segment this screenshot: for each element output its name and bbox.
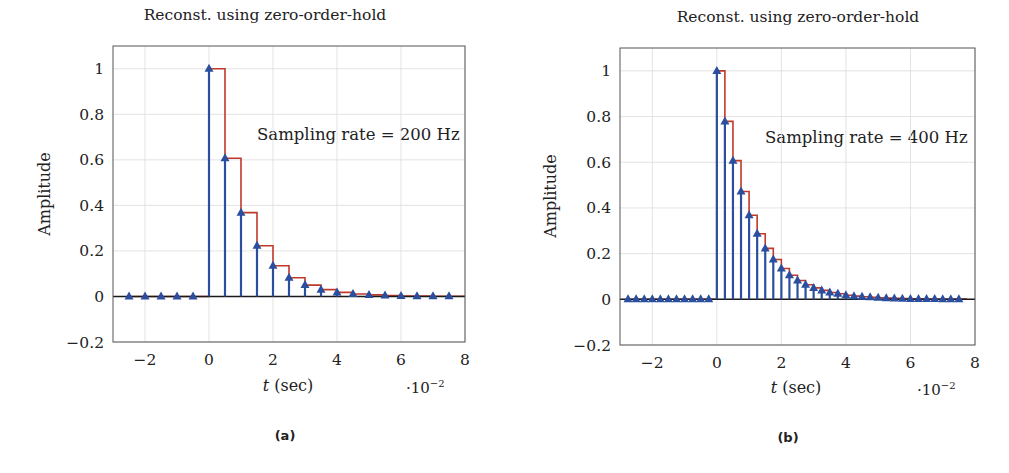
zero-order-hold-line [129, 69, 465, 297]
sample-marker-triangle-icon [656, 294, 665, 302]
x-tick-label: 8 [460, 351, 470, 369]
sample-marker-triangle-icon [688, 294, 697, 302]
plot-area-a: −0.200.20.40.60.81−202468 [66, 46, 470, 369]
y-tick-label: −0.2 [66, 334, 104, 352]
sample-marker-triangle-icon [173, 292, 182, 300]
sample-marker-triangle-icon [737, 187, 746, 195]
sample-marker-triangle-icon [680, 294, 689, 302]
sample-marker-triangle-icon [333, 287, 342, 295]
y-tick-label: 0.6 [586, 154, 611, 172]
sample-marker-triangle-icon [825, 287, 834, 295]
sample-marker-triangle-icon [269, 261, 278, 269]
y-tick-label: 1 [94, 60, 104, 78]
y-tick-label: 0.6 [79, 151, 104, 169]
x-tick-label: 4 [332, 351, 342, 369]
y-tick-label: 0.8 [586, 108, 611, 126]
x-tick-label: 4 [841, 354, 851, 372]
sample-marker-triangle-icon [141, 292, 150, 300]
sample-marker-triangle-icon [769, 255, 778, 263]
sample-marker-triangle-icon [946, 294, 955, 302]
y-tick-label: 0 [601, 291, 611, 309]
plot-area-b: −0.200.20.40.60.81−202468 [573, 48, 980, 372]
sample-marker-triangle-icon [696, 294, 705, 302]
sample-marker-triangle-icon [745, 210, 754, 218]
x-tick-label: 8 [970, 354, 980, 372]
sample-marker-triangle-icon [445, 291, 454, 299]
zero-order-hold-line [628, 71, 967, 299]
y-tick-label: −0.2 [573, 337, 611, 355]
sample-marker-triangle-icon [728, 156, 737, 164]
x-tick-label: 0 [204, 351, 214, 369]
sample-marker-triangle-icon [125, 292, 134, 300]
sample-marker-triangle-icon [205, 64, 214, 72]
sample-marker-triangle-icon [640, 294, 649, 302]
y-tick-label: 0.2 [586, 245, 611, 263]
y-tick-label: 1 [601, 62, 611, 80]
sample-marker-triangle-icon [753, 229, 762, 237]
axis-frame [113, 46, 465, 342]
sample-marker-triangle-icon [785, 270, 794, 278]
sample-marker-triangle-icon [761, 243, 770, 251]
x-tick-label: 0 [712, 354, 722, 372]
x-tick-label: 6 [906, 354, 916, 372]
sample-marker-triangle-icon [938, 294, 947, 302]
sample-marker-triangle-icon [632, 294, 641, 302]
x-tick-label: 2 [776, 354, 786, 372]
sample-marker-triangle-icon [253, 241, 262, 249]
y-tick-label: 0.4 [79, 197, 104, 215]
x-tick-label: 6 [396, 351, 406, 369]
sample-marker-triangle-icon [817, 285, 826, 293]
sample-marker-triangle-icon [914, 294, 923, 302]
sample-marker-triangle-icon [237, 208, 246, 216]
x-tick-label: 2 [268, 351, 278, 369]
y-tick-label: 0.4 [586, 199, 611, 217]
plots-canvas: −0.200.20.40.60.81−202468−0.200.20.40.60… [0, 0, 1009, 473]
sample-marker-triangle-icon [930, 294, 939, 302]
sample-marker-triangle-icon [189, 292, 198, 300]
sample-marker-triangle-icon [664, 294, 673, 302]
y-tick-label: 0.8 [79, 106, 104, 124]
sample-marker-triangle-icon [429, 291, 438, 299]
y-tick-label: 0 [94, 288, 104, 306]
sample-marker-triangle-icon [704, 294, 713, 302]
sample-marker-triangle-icon [301, 280, 310, 288]
y-tick-label: 0.2 [79, 242, 104, 260]
sample-marker-triangle-icon [712, 66, 721, 74]
sample-marker-triangle-icon [285, 273, 294, 281]
sample-marker-triangle-icon [720, 116, 729, 124]
sample-marker-triangle-icon [777, 264, 786, 272]
sample-marker-triangle-icon [221, 153, 230, 161]
sample-marker-triangle-icon [672, 294, 681, 302]
x-tick-label: −2 [641, 354, 664, 372]
sample-marker-triangle-icon [793, 276, 802, 284]
sample-marker-triangle-icon [922, 294, 931, 302]
sample-marker-triangle-icon [954, 294, 963, 302]
x-tick-label: −2 [134, 351, 157, 369]
sample-marker-triangle-icon [157, 292, 166, 300]
sample-marker-triangle-icon [648, 294, 657, 302]
sample-marker-triangle-icon [624, 294, 633, 302]
sample-marker-triangle-icon [413, 291, 422, 299]
